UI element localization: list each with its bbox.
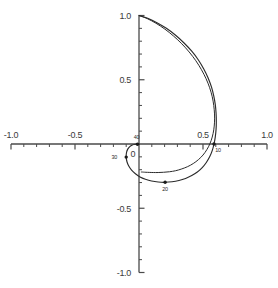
sample-point-label: 30 <box>111 154 117 160</box>
sample-point-marker <box>125 155 128 158</box>
x-axis-label: -0.5 <box>68 130 83 140</box>
sample-point-marker <box>136 143 139 146</box>
x-axis-label: -1.0 <box>4 130 19 140</box>
sample-point-marker <box>163 181 166 184</box>
y-axis-label: -0.5 <box>117 204 132 214</box>
y-axis-label: -1.0 <box>117 268 132 278</box>
nyquist-plot: -1.0-0.500.51.0-1.0-0.50.51.0 10203040 <box>0 0 278 288</box>
origin-label: 0 <box>130 149 135 159</box>
x-axis-label: 1.0 <box>261 130 273 140</box>
sample-point-label: 10 <box>215 147 221 153</box>
x-axis-label: 0.5 <box>197 130 209 140</box>
y-axis-label: 1.0 <box>119 11 131 21</box>
sample-point-label: 20 <box>162 186 168 192</box>
y-axis-label: 0.5 <box>119 75 131 85</box>
sample-point-marker <box>212 142 215 145</box>
sample-point-markers <box>125 142 216 184</box>
sample-point-label: 40 <box>134 134 140 140</box>
plot-canvas: -1.0-0.500.51.0-1.0-0.50.51.0 10203040 <box>0 0 278 288</box>
